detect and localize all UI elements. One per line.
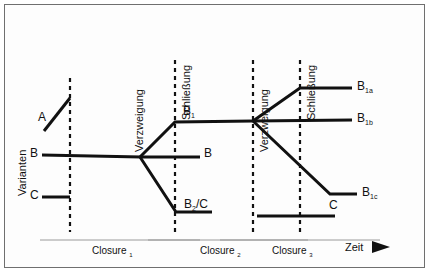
- variant-label-b-start: B: [30, 147, 38, 159]
- closure-caption-3-sub: 3: [309, 252, 312, 258]
- variant-label-b1b-sub: 1b: [365, 119, 373, 126]
- closure-caption-2-sub: 2: [237, 252, 240, 258]
- variant-label-c-start: C: [30, 189, 39, 201]
- event-label-schliessung-2: Schließung: [305, 65, 317, 120]
- x-axis-label: Zeit: [345, 242, 363, 253]
- path-b-to-b1: [140, 121, 253, 157]
- diagram-canvas: [0, 0, 431, 274]
- variant-label-b1a-base: B: [357, 79, 365, 93]
- variant-label-b2c-base: B: [184, 197, 192, 211]
- variant-label-b1b: B1b: [357, 112, 373, 126]
- variant-label-b2c-suffix: /C: [196, 197, 208, 211]
- zeit-arrow-icon: [372, 241, 390, 253]
- y-axis-label: Varianten: [16, 150, 28, 196]
- variant-label-a: A: [38, 111, 46, 123]
- variant-label-b-mid: B: [204, 147, 212, 159]
- closure-caption-1-sub: 1: [129, 252, 132, 258]
- closure-caption-3: Closure 3: [272, 245, 313, 258]
- variant-label-b1a-sub: 1a: [365, 87, 373, 94]
- diagram-root: Varianten Verzweigung Schließung Verzwei…: [0, 0, 431, 274]
- variant-label-b1c-base: B: [362, 185, 370, 199]
- variant-label-b1: B1: [183, 105, 195, 119]
- variant-label-b1c: B1c: [362, 186, 377, 200]
- path-b: [42, 155, 141, 157]
- closure-caption-3-text: Closure: [272, 245, 306, 256]
- variant-label-b1c-sub: 1c: [370, 193, 377, 200]
- variant-label-b2c: B2/C: [184, 198, 208, 212]
- variant-label-b1-sub: 1: [191, 112, 195, 119]
- closure-caption-1: Closure 1: [92, 245, 133, 258]
- path-a: [44, 98, 70, 131]
- closure-caption-2-text: Closure: [200, 245, 234, 256]
- variant-label-b1a: B1a: [357, 80, 373, 94]
- event-label-verzweigung-1: Verzweigung: [133, 89, 145, 152]
- event-label-verzweigung-2: Verzweigung: [258, 89, 270, 152]
- closure-caption-2: Closure 2: [200, 245, 241, 258]
- variant-label-b1-base: B: [183, 104, 191, 118]
- closure-caption-1-text: Closure: [92, 245, 126, 256]
- variant-label-b1b-base: B: [357, 111, 365, 125]
- variant-label-c-end: C: [329, 199, 338, 211]
